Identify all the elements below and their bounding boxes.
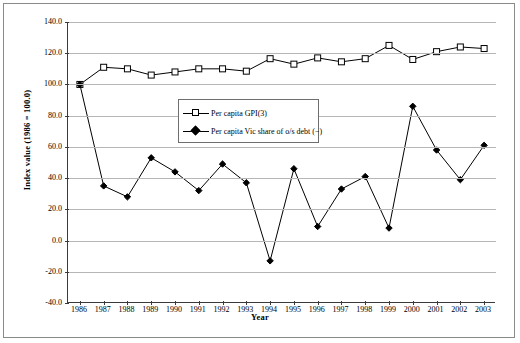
chart-figure: Index value (1986 = 100.0) 140.0120.0100… bbox=[0, 0, 520, 343]
x-axis-title: Year bbox=[0, 312, 520, 322]
legend-label-gpi: Per capita GPI(3) bbox=[209, 109, 267, 118]
y-axis-tick-label: 100.0 bbox=[18, 80, 62, 88]
y-axis-tick-label: 80.0 bbox=[18, 112, 62, 120]
filled-diamond-marker-icon bbox=[183, 125, 209, 137]
y-axis-tick-labels: 140.0120.0100.080.060.040.020.00.0-20.0-… bbox=[14, 22, 62, 303]
y-axis-tick-label: -40.0 bbox=[18, 299, 62, 307]
legend-item-gpi: Per capita GPI(3) bbox=[183, 104, 314, 122]
x-axis-tick-labels: 1986198719881989199019911992199319941995… bbox=[67, 0, 495, 343]
y-axis-tick-label: 0.0 bbox=[18, 237, 62, 245]
y-axis-tick-label: 140.0 bbox=[18, 18, 62, 26]
y-axis-tick-label: 20.0 bbox=[18, 205, 62, 213]
y-axis-tick-label: 60.0 bbox=[18, 143, 62, 151]
legend-item-debt: Per capita Vic share of o/s debt (−) bbox=[183, 122, 314, 140]
y-axis-tick-label: 40.0 bbox=[18, 174, 62, 182]
y-axis-tick-label: -20.0 bbox=[18, 268, 62, 276]
legend-label-debt: Per capita Vic share of o/s debt (−) bbox=[209, 127, 322, 136]
y-axis-tick-label: 120.0 bbox=[18, 49, 62, 57]
open-square-marker-icon bbox=[183, 107, 209, 119]
chart-legend: Per capita GPI(3) Per capita Vic share o… bbox=[178, 99, 319, 143]
